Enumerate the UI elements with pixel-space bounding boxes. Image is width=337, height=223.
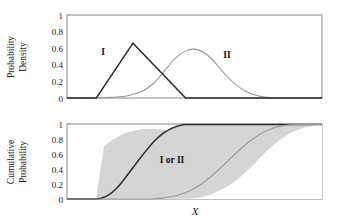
x-axis-label: X	[191, 205, 200, 217]
top-ytick-3: 0.6	[52, 44, 64, 54]
figure-container: Probability Density 1 0.8 0.6 0.4 0.2 0	[0, 0, 337, 223]
bottom-ytick-1: 0.2	[52, 180, 63, 190]
two-panel-probability-figure: Probability Density 1 0.8 0.6 0.4 0.2 0	[0, 0, 337, 223]
top-ylabel-line2: Density	[18, 42, 28, 72]
bottom-ytick-2: 0.4	[52, 165, 64, 175]
top-ytick-2: 0.4	[52, 60, 64, 70]
top-ylabel-line1: Probability	[6, 36, 16, 78]
bottom-ytick-3: 0.6	[52, 150, 64, 160]
top-panel: Probability Density 1 0.8 0.6 0.4 0.2 0	[6, 11, 322, 104]
bottom-ytick-5: 1	[59, 120, 64, 130]
pdf-label-I: I	[101, 47, 105, 57]
top-ytick-0: 0	[59, 94, 64, 104]
bottom-panel: Cumulative Probability 1 0.8 0.6 0.4 0.2…	[6, 120, 322, 218]
top-ytick-1: 0.2	[52, 77, 63, 87]
bottom-ytick-0: 0	[59, 195, 64, 205]
cdf-region-label: I or II	[160, 155, 185, 165]
top-ytick-4: 0.8	[52, 27, 64, 37]
pdf-label-II: II	[223, 50, 231, 60]
bottom-ytick-4: 0.8	[52, 135, 64, 145]
bottom-ylabel-line2: Probability	[18, 141, 28, 183]
bottom-ylabel-line1: Cumulative	[6, 140, 16, 184]
top-ytick-5: 1	[59, 11, 64, 21]
